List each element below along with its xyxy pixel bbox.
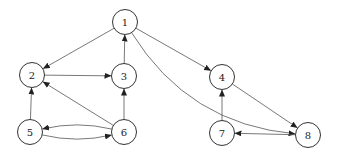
node-label: 5	[27, 127, 33, 138]
node-label: 1	[122, 17, 128, 28]
edges-layer	[30, 28, 297, 139]
node-label: 4	[219, 72, 225, 83]
edge-8-to-7	[235, 133, 296, 134]
node-6: 6	[112, 120, 137, 145]
node-label: 2	[29, 70, 35, 81]
edge-5-to-2	[30, 88, 31, 120]
node-7: 7	[210, 121, 235, 146]
node-1: 1	[113, 10, 138, 35]
edge-1-to-2	[43, 28, 114, 68]
node-label: 7	[219, 128, 225, 139]
node-2: 2	[20, 63, 45, 88]
edge-5-to-6	[42, 135, 111, 139]
node-label: 3	[121, 71, 127, 82]
node-label: 8	[305, 130, 311, 141]
node-5: 5	[18, 120, 43, 145]
node-8: 8	[296, 123, 321, 148]
edge-3-to-1	[124, 35, 125, 64]
edge-6-to-2	[43, 82, 113, 126]
edge-4-to-8	[232, 84, 297, 128]
directed-graph: 12345678	[0, 0, 342, 154]
node-4: 4	[210, 65, 235, 90]
edge-1-to-4	[136, 28, 211, 70]
node-label: 6	[121, 127, 127, 138]
node-3: 3	[112, 64, 137, 89]
edge-2-to-3	[44, 75, 111, 76]
nodes-layer: 12345678	[18, 10, 321, 148]
edge-6-to-5	[43, 125, 112, 129]
